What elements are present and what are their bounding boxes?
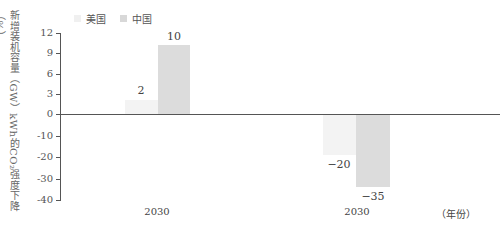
legend-swatch-us <box>74 15 81 22</box>
y-tick <box>56 157 60 158</box>
y-tick <box>56 179 60 180</box>
bar-china-capacity <box>158 45 190 114</box>
value-label-us-capacity: 2 <box>121 84 161 97</box>
legend-label-china: 中国 <box>132 11 152 26</box>
zero-baseline <box>60 114 500 115</box>
y-tick <box>56 136 60 137</box>
y-tick <box>56 74 60 75</box>
bar-us-co2-intensity <box>323 115 356 155</box>
y-tick <box>56 94 60 95</box>
legend: 美国 中国 <box>74 11 152 26</box>
y-tick <box>56 33 60 34</box>
y-tick <box>56 53 60 54</box>
y-axis <box>60 33 61 201</box>
y-tick <box>56 200 60 201</box>
y-tick <box>56 114 60 115</box>
x-category-label: 2030 <box>327 206 387 217</box>
y-tick-label: 0 <box>25 109 53 119</box>
y-tick-label: -20 <box>25 152 53 162</box>
y-tick-label: 12 <box>25 28 53 38</box>
bar-us-capacity <box>125 100 158 114</box>
x-axis-unit-label: （年份） <box>436 206 476 221</box>
legend-item-us: 美国 <box>74 11 106 26</box>
y-tick-label: -30 <box>25 174 53 184</box>
bar-china-co2-intensity <box>356 115 390 187</box>
value-label-china-capacity: 10 <box>154 30 194 43</box>
legend-label-us: 美国 <box>86 11 106 26</box>
y-tick-label: -10 <box>25 131 53 141</box>
value-label-china-co2-intensity: −35 <box>353 190 393 203</box>
y-tick-label: 6 <box>25 69 53 79</box>
legend-item-china: 中国 <box>120 11 152 26</box>
value-label-us-co2-intensity: −20 <box>319 158 359 171</box>
y-tick-label: 9 <box>25 48 53 58</box>
x-category-label: 2030 <box>127 206 187 217</box>
y-tick-label: -40 <box>25 195 53 205</box>
y-axis-label: 新增装机容量（GW）kWh的CO₂强度下降（%） <box>4 10 20 230</box>
y-tick-label: 3 <box>25 89 53 99</box>
legend-swatch-china <box>120 15 127 22</box>
